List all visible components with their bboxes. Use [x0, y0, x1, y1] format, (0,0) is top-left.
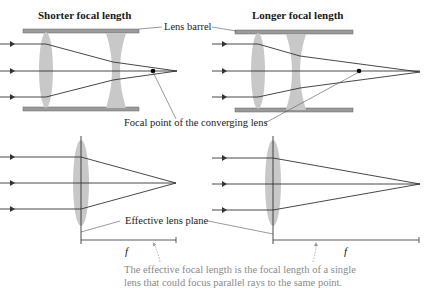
label-f-short: f	[125, 245, 128, 257]
note-line-1: The effective focal length is the focal …	[124, 263, 356, 276]
label-lens-barrel: Lens barrel	[164, 21, 212, 33]
optics-diagram	[0, 0, 427, 288]
note-line-2: lens that could focus parallel rays to t…	[124, 276, 342, 288]
label-focal-point: Focal point of the converging lens	[124, 117, 268, 129]
lens-barrel-top	[23, 29, 139, 33]
lens-barrel-top	[235, 30, 353, 34]
diverging-lens	[286, 34, 306, 110]
label-f-long: f	[344, 245, 347, 257]
label-effective-lens-plane: Effective lens plane	[125, 215, 208, 227]
panel-effective-short	[0, 136, 176, 244]
rays	[212, 44, 420, 97]
diverging-lens	[106, 33, 126, 108]
panel-longer-focal-length	[212, 30, 420, 112]
title-shorter-focal-length: Shorter focal length	[38, 9, 131, 21]
panel-shorter-focal-length	[0, 29, 177, 111]
rays	[0, 44, 177, 97]
title-longer-focal-length: Longer focal length	[252, 9, 343, 21]
